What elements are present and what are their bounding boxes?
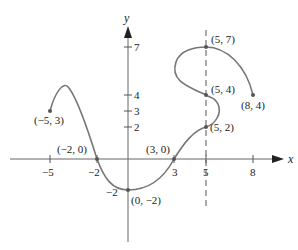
point-marker xyxy=(172,157,176,161)
point-label: (−2, 0) xyxy=(57,143,87,156)
point-marker xyxy=(204,125,208,129)
data-points xyxy=(48,45,255,192)
y-tick-label: 7 xyxy=(134,41,140,53)
point-label: (5, 4) xyxy=(211,83,235,96)
y-axis-arrow-icon xyxy=(124,26,132,38)
point-label: (5, 2) xyxy=(210,121,234,134)
x-axis-arrow-icon xyxy=(272,155,284,163)
point-label: (8, 4) xyxy=(241,99,265,112)
point-marker xyxy=(95,157,99,161)
y-tick-label: 2 xyxy=(134,121,140,133)
point-marker xyxy=(204,45,208,49)
point-marker xyxy=(251,93,255,97)
point-label: (−5, 3) xyxy=(34,114,64,127)
x-axis-label: x xyxy=(287,152,294,166)
point-marker xyxy=(204,93,208,97)
point-label: (3, 0) xyxy=(146,143,170,156)
x-tick-label: 8 xyxy=(250,166,256,178)
point-marker xyxy=(126,188,130,192)
point-label: (5, 7) xyxy=(211,33,235,46)
x-tick-label: −5 xyxy=(42,166,54,178)
y-axis-label: y xyxy=(123,11,130,25)
x-tick-label: −2 xyxy=(88,166,100,178)
point-marker xyxy=(48,109,52,113)
y-tick-label: 3 xyxy=(134,105,140,117)
parametric-curve xyxy=(50,47,253,190)
y-tick-label: 4 xyxy=(134,89,140,101)
x-tick-label: 3 xyxy=(172,166,178,178)
parametric-curve-chart: x y −5 −2 3 5 8 7 4 3 2 −2 (−5, 3) (−2, … xyxy=(0,0,298,250)
point-label: (0, −2) xyxy=(131,194,161,207)
axes xyxy=(10,26,284,242)
